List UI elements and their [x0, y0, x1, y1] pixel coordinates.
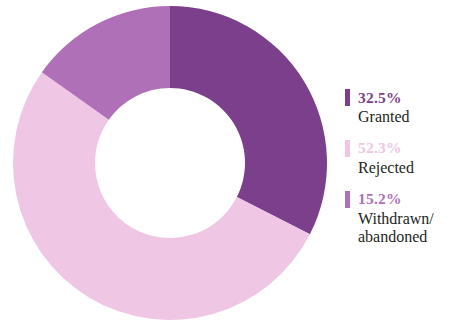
legend-percent: 32.5% [358, 89, 402, 107]
legend-swatch-icon [345, 140, 350, 157]
legend-item-withdrawn-abandoned[interactable]: 15.2% Withdrawn/ abandoned [345, 190, 467, 246]
legend-item-granted[interactable]: 32.5% Granted [345, 88, 467, 126]
legend-percent: 15.2% [358, 190, 402, 208]
legend-label: Rejected [358, 159, 467, 177]
chart-legend: 32.5% Granted 52.3% Rejected 15.2% Withd… [345, 88, 467, 259]
donut-chart-figure: 32.5% Granted 52.3% Rejected 15.2% Withd… [0, 0, 467, 336]
legend-item-rejected[interactable]: 52.3% Rejected [345, 139, 467, 177]
donut-slice[interactable] [170, 6, 327, 234]
legend-percent: 52.3% [358, 139, 402, 157]
legend-label: Granted [358, 108, 467, 126]
legend-value-row: 32.5% [345, 88, 467, 107]
legend-value-row: 52.3% [345, 139, 467, 158]
legend-swatch-icon [345, 191, 350, 208]
legend-swatch-icon [345, 89, 350, 106]
donut-chart-svg [10, 3, 330, 323]
donut-slice-group [13, 6, 327, 320]
legend-label: Withdrawn/ abandoned [358, 210, 467, 246]
donut-chart [10, 3, 330, 323]
legend-value-row: 15.2% [345, 190, 467, 209]
